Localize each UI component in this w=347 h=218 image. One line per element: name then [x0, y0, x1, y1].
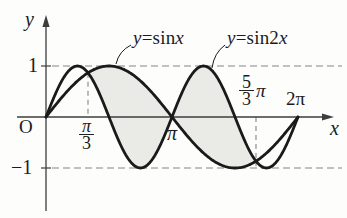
curve2-mid: =sin2 — [236, 27, 279, 48]
y-axis-label: y — [25, 9, 34, 29]
y-axis-arrow-icon — [42, 15, 49, 27]
curve1-label: y=sinx — [133, 28, 184, 47]
pi-over-3-fraction: π 3 — [79, 119, 94, 150]
curve1-arg: x — [175, 27, 184, 48]
leader-line-1 — [116, 45, 131, 64]
pi-over-3-numerator: π — [82, 119, 91, 133]
leader-line-2 — [212, 45, 225, 68]
curve1-mid: =sin — [142, 27, 176, 48]
curve1-var: y — [133, 27, 142, 48]
five-thirds-pi-symbol: π — [256, 81, 266, 100]
y-tick-neg-1: −1 — [11, 157, 32, 177]
pi-over-3-denominator: 3 — [82, 136, 91, 150]
x-tick-pi-over-3: π 3 — [79, 119, 94, 150]
x-tick-pi: π — [167, 123, 177, 143]
five-thirds-numerator: 5 — [242, 75, 251, 89]
curve2-label: y=sin2x — [227, 28, 288, 47]
curve2-arg: x — [279, 27, 288, 48]
x-axis-label: x — [330, 118, 339, 138]
y-tick-1: 1 — [18, 55, 38, 75]
five-thirds-denominator: 3 — [242, 92, 251, 106]
x-tick-two-pi: 2π — [286, 89, 305, 108]
origin-label: O — [19, 117, 33, 136]
five-thirds-fraction: 5 3 — [239, 75, 254, 106]
trig-figure: y x O 1 −1 π 3 π 5 3 π 2π y=sinx y=sin2x — [0, 0, 347, 218]
curve2-var: y — [227, 27, 236, 48]
x-tick-five-thirds-pi: 5 3 π — [239, 75, 266, 106]
